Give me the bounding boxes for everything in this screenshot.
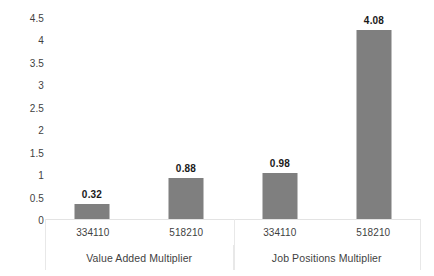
x-tick-label: 518210	[140, 219, 234, 245]
x-group-label-value-added-multiplier: Value Added Multiplier	[46, 245, 233, 270]
bar-chart: 4.5 4 3.5 3 2.5 2 1.5 1 0.5 0 0.32 0.88 …	[0, 0, 434, 276]
y-tick-label: 3.5	[4, 59, 44, 69]
x-axis-category-table: 334110 518210 334110 518210 Value Added …	[45, 219, 421, 270]
bar[interactable]	[169, 178, 204, 219]
x-tick-label: 518210	[327, 219, 421, 245]
plot-area: 0.32 0.88 0.98 4.08	[45, 10, 421, 219]
bar-group-job-positions-334110: 0.98	[233, 10, 327, 219]
x-tick-label: 334110	[46, 219, 140, 245]
x-group-label-job-positions-multiplier: Job Positions Multiplier	[233, 245, 421, 270]
y-tick-label: 1.5	[4, 149, 44, 159]
bar-group-value-added-334110: 0.32	[45, 10, 139, 219]
bar-group-job-positions-518210: 4.08	[327, 10, 421, 219]
y-tick-label: 0.5	[4, 194, 44, 204]
y-tick-label: 4.5	[4, 14, 44, 24]
x-axis-naics-row: 334110 518210 334110 518210	[46, 219, 420, 245]
y-tick-label: 4	[4, 36, 44, 46]
bar-value-label: 4.08	[364, 15, 384, 26]
y-tick-label: 1	[4, 171, 44, 181]
y-tick-label: 2	[4, 126, 44, 136]
y-tick-label: 0	[4, 216, 44, 226]
x-tick-label: 334110	[233, 219, 327, 245]
bar-group-value-added-518210: 0.88	[139, 10, 233, 219]
bar-value-label: 0.88	[176, 163, 196, 174]
y-tick-label: 2.5	[4, 104, 44, 114]
bar[interactable]	[263, 173, 298, 219]
bar[interactable]	[357, 30, 392, 219]
bar-value-label: 0.98	[270, 158, 290, 169]
x-axis-group-row: Value Added Multiplier Job Positions Mul…	[46, 245, 420, 270]
bar[interactable]	[75, 204, 110, 219]
group-divider	[234, 219, 235, 270]
y-tick-label: 3	[4, 81, 44, 91]
bar-value-label: 0.32	[82, 189, 102, 200]
